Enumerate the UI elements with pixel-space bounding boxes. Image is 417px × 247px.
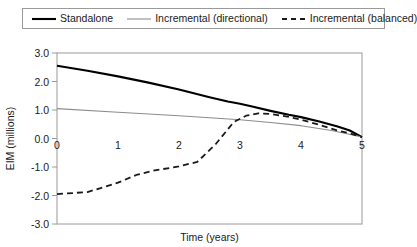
plot-frame [57, 53, 362, 224]
x-tick-label: 3 [237, 139, 243, 151]
x-axis-title: Time (years) [180, 231, 239, 243]
y-tick-label: -3.0 [31, 218, 49, 230]
y-tick-label: 2.0 [34, 76, 49, 88]
x-tick-label: 5 [359, 139, 365, 151]
x-tick-label: 4 [298, 139, 304, 151]
y-tick-label: 3.0 [34, 47, 49, 59]
y-tick-label: 0.0 [34, 133, 49, 145]
y-axis-title: EIM (millions) [4, 107, 16, 171]
y-tick-label: -2.0 [31, 190, 49, 202]
y-tick-label: 1.0 [34, 104, 49, 116]
series-line [57, 113, 362, 194]
y-tick-label: -1.0 [31, 161, 49, 173]
series-line [57, 66, 362, 137]
x-tick-label: 2 [176, 139, 182, 151]
x-tick-label: 0 [54, 139, 60, 151]
series-line [57, 109, 362, 137]
x-tick-label: 1 [115, 139, 121, 151]
